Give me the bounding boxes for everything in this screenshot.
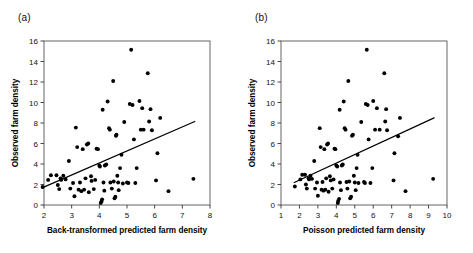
data-point xyxy=(310,177,314,181)
data-point xyxy=(355,166,359,170)
data-point xyxy=(120,153,124,157)
data-point xyxy=(64,177,68,181)
y-tick-label: 12 xyxy=(29,78,38,87)
data-point xyxy=(129,48,133,52)
data-point xyxy=(86,142,90,146)
data-point xyxy=(87,190,91,194)
data-point xyxy=(365,48,369,52)
data-point xyxy=(74,126,78,130)
data-point xyxy=(75,145,79,149)
data-point xyxy=(396,134,400,138)
data-point xyxy=(383,120,387,124)
data-point xyxy=(102,181,106,185)
y-tick-label: 16 xyxy=(29,37,38,46)
panel-a: (a) 23456780246810121416Back-transformed… xyxy=(0,0,236,253)
data-point xyxy=(378,128,382,132)
data-point xyxy=(338,108,342,112)
data-point xyxy=(431,177,435,181)
data-point xyxy=(133,181,137,185)
y-tick-label: 14 xyxy=(29,58,38,67)
data-point xyxy=(71,181,75,185)
x-tick-label: 7 xyxy=(389,211,394,220)
data-point xyxy=(155,151,159,155)
data-point xyxy=(367,137,371,141)
x-tick-label: 3 xyxy=(316,211,321,220)
data-point xyxy=(303,173,307,177)
x-tick-label: 8 xyxy=(408,211,413,220)
data-point xyxy=(327,190,331,194)
data-point xyxy=(59,178,63,182)
data-point xyxy=(61,174,65,178)
data-point xyxy=(117,188,121,192)
data-point xyxy=(338,181,342,185)
data-point xyxy=(304,183,308,187)
data-point xyxy=(305,187,309,191)
data-point xyxy=(100,197,104,201)
data-point xyxy=(89,174,93,178)
data-point xyxy=(312,159,316,163)
data-point xyxy=(339,188,343,192)
data-point xyxy=(111,79,115,83)
figure-container: (a) 23456780246810121416Back-transformed… xyxy=(0,0,473,253)
data-point xyxy=(78,181,82,185)
regression-line xyxy=(294,118,434,183)
data-point xyxy=(67,159,71,163)
data-point xyxy=(347,179,351,183)
x-tick-label: 4 xyxy=(334,211,339,220)
data-point-group xyxy=(41,48,196,205)
data-point xyxy=(404,189,408,193)
data-point xyxy=(298,177,302,181)
x-tick-label: 3 xyxy=(69,211,74,220)
data-point xyxy=(106,100,110,104)
data-point xyxy=(384,107,388,111)
data-point xyxy=(138,99,142,103)
data-point xyxy=(84,176,88,180)
data-point xyxy=(116,181,120,185)
data-point xyxy=(110,187,114,191)
x-tick-label: 5 xyxy=(353,211,358,220)
data-point xyxy=(118,166,122,170)
x-tick-label: 6 xyxy=(152,211,157,220)
y-tick-label: 8 xyxy=(271,119,276,128)
data-point xyxy=(122,120,126,124)
scatter-plot-a: 23456780246810121416Back-transformed pre… xyxy=(0,0,236,253)
data-point xyxy=(135,166,139,170)
data-point xyxy=(370,166,374,170)
data-point xyxy=(351,133,355,137)
data-point xyxy=(357,181,361,185)
data-point xyxy=(46,178,50,182)
data-point xyxy=(146,71,150,75)
data-point xyxy=(323,188,327,192)
y-tick-label: 4 xyxy=(271,160,276,169)
data-point xyxy=(149,107,153,111)
data-point xyxy=(382,71,386,75)
y-tick-label: 10 xyxy=(29,99,38,108)
x-tick-label: 8 xyxy=(208,211,213,220)
x-tick-label: 4 xyxy=(97,211,102,220)
y-tick-label: 14 xyxy=(266,58,275,67)
data-point xyxy=(104,163,108,167)
y-axis-title: Observed farm density xyxy=(248,78,257,167)
data-point xyxy=(167,189,171,193)
data-point xyxy=(150,128,154,132)
data-point xyxy=(398,116,402,120)
data-point xyxy=(373,128,377,132)
data-point xyxy=(356,153,360,157)
data-point xyxy=(315,181,319,185)
x-tick-label: 7 xyxy=(180,211,185,220)
data-point xyxy=(68,187,72,191)
data-point xyxy=(337,197,341,201)
data-point xyxy=(349,195,353,199)
data-point xyxy=(113,195,117,199)
x-tick-label: 10 xyxy=(443,211,452,220)
data-point xyxy=(49,173,53,177)
data-point xyxy=(332,177,336,181)
data-point xyxy=(359,120,363,124)
data-point xyxy=(392,178,396,182)
data-point xyxy=(321,180,325,184)
y-tick-label: 2 xyxy=(34,181,39,190)
y-tick-label: 10 xyxy=(266,99,275,108)
data-point xyxy=(92,187,96,191)
data-point xyxy=(352,174,356,178)
data-point xyxy=(126,181,130,185)
